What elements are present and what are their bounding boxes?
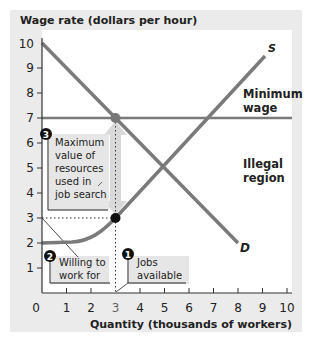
svg-text:3: 3: [26, 211, 34, 225]
svg-text:Maximum: Maximum: [55, 137, 104, 148]
svg-text:available: available: [137, 270, 182, 281]
svg-text:5: 5: [26, 161, 34, 175]
svg-text:1: 1: [26, 261, 34, 275]
svg-text:3: 3: [112, 301, 120, 315]
svg-text:4: 4: [26, 186, 34, 200]
svg-text:resources: resources: [55, 163, 103, 174]
x-ticks: [67, 288, 288, 293]
svg-text:2: 2: [47, 252, 53, 262]
svg-text:5: 5: [161, 301, 169, 315]
chart-svg: 10 9 8 7 6 5 4 3 2 1 0 1 2 3 4 5 6 7 8 9…: [0, 0, 315, 342]
svg-text:7: 7: [26, 111, 34, 125]
svg-text:8: 8: [234, 301, 242, 315]
svg-text:2: 2: [87, 301, 95, 315]
svg-text:value of: value of: [55, 150, 96, 161]
svg-text:work for: work for: [59, 270, 101, 281]
svg-text:3: 3: [43, 130, 49, 140]
supply-price-point: [111, 213, 121, 223]
svg-text:7: 7: [210, 301, 218, 315]
svg-text:10: 10: [279, 301, 294, 315]
svg-text:10: 10: [19, 37, 34, 51]
illegal-region-label-2: region: [243, 171, 285, 185]
svg-text:2: 2: [26, 236, 34, 250]
demand-label: D: [240, 241, 250, 255]
illegal-region-label-1: Illegal: [243, 157, 283, 171]
supply-label: S: [268, 42, 276, 55]
svg-text:6: 6: [185, 301, 193, 315]
y-ticks: [37, 68, 42, 268]
x-axis-title: Quantity (thousands of workers): [90, 318, 292, 331]
x-tick-labels: 0 1 2 3 4 5 6 7 8 9 10: [32, 301, 294, 315]
y-tick-labels: 10 9 8 7 6 5 4 3 2 1: [19, 37, 34, 275]
y-axis-title: Wage rate (dollars per hour): [20, 14, 197, 27]
svg-text:9: 9: [259, 301, 267, 315]
minimum-wage-label-1: Minimum: [243, 87, 303, 101]
svg-text:used in: used in: [55, 176, 91, 187]
svg-text:4: 4: [136, 301, 144, 315]
svg-text:0: 0: [32, 301, 40, 315]
svg-text:Willing to: Willing to: [59, 257, 106, 268]
min-wage-point: [111, 113, 121, 123]
svg-text:1: 1: [63, 301, 71, 315]
minimum-wage-label-2: wage: [243, 101, 278, 115]
svg-text:job search: job search: [54, 189, 107, 200]
svg-text:1: 1: [125, 250, 131, 260]
svg-text:6: 6: [26, 136, 34, 150]
svg-text:Jobs: Jobs: [136, 257, 158, 268]
svg-text:9: 9: [26, 61, 34, 75]
svg-text:8: 8: [26, 86, 34, 100]
